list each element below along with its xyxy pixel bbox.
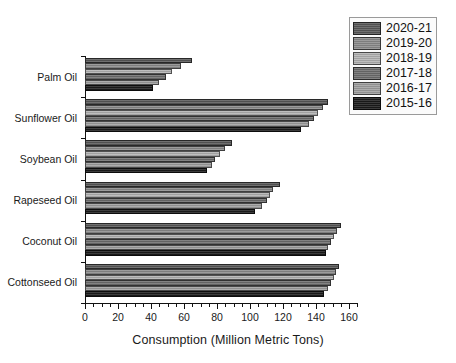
bar-row — [85, 209, 356, 214]
y-axis-label: Soybean Oil — [20, 153, 77, 165]
legend-swatch — [353, 22, 381, 35]
y-axis-label: Coconut Oil — [22, 235, 77, 247]
bar-chart: Palm OilSunflower OilSoybean OilRapeseed… — [0, 0, 456, 363]
x-axis-tick-minor — [234, 303, 235, 307]
y-axis-label: Sunflower Oil — [15, 112, 77, 124]
legend-swatch — [353, 37, 381, 50]
bar-group: Rapeseed Oil — [85, 180, 356, 221]
y-axis-tick — [81, 262, 86, 263]
x-axis-tick-major — [250, 303, 251, 309]
legend-item[interactable]: 2016-17 — [353, 81, 432, 96]
x-axis-tick-minor — [308, 303, 309, 307]
legend-label: 2017-18 — [386, 67, 432, 80]
x-axis-tick-minor — [333, 303, 334, 307]
bar-row — [85, 85, 356, 90]
x-axis-tick-minor — [300, 303, 301, 307]
x-axis-tick-label: 100 — [241, 311, 259, 323]
x-axis-tick-minor — [168, 303, 169, 307]
legend-swatch — [353, 52, 381, 65]
bar[interactable] — [85, 250, 326, 255]
x-axis-tick-label: 60 — [178, 311, 190, 323]
x-axis-tick-minor — [201, 303, 202, 307]
x-axis-tick-minor — [209, 303, 210, 307]
x-axis-tick-label: 80 — [211, 311, 223, 323]
x-axis-tick-minor — [275, 303, 276, 307]
x-axis-tick-major — [283, 303, 284, 309]
x-axis-tick-minor — [267, 303, 268, 307]
legend-item[interactable]: 2019-20 — [353, 36, 432, 51]
y-axis-label: Rapeseed Oil — [13, 194, 77, 206]
x-axis-tick-minor — [159, 303, 160, 307]
x-axis-tick-minor — [176, 303, 177, 307]
x-axis-tick-label: 0 — [82, 311, 88, 323]
bar-row — [85, 250, 356, 255]
plot-area: Palm OilSunflower OilSoybean OilRapeseed… — [85, 56, 356, 303]
bar[interactable] — [85, 209, 255, 214]
y-axis-tick — [81, 221, 86, 222]
x-axis-tick-minor — [93, 303, 94, 307]
legend-item[interactable]: 2017-18 — [353, 66, 432, 81]
x-axis-tick-major — [316, 303, 317, 309]
x-axis-tick-minor — [126, 303, 127, 307]
x-axis-tick-minor — [291, 303, 292, 307]
bar-group: Sunflower Oil — [85, 97, 356, 138]
bar-row — [85, 291, 356, 296]
x-axis-tick-minor — [258, 303, 259, 307]
bar[interactable] — [85, 168, 207, 173]
x-axis-tick-minor — [324, 303, 325, 307]
legend-item[interactable]: 2018-19 — [353, 51, 432, 66]
legend-label: 2018-19 — [386, 52, 432, 65]
x-axis-tick-minor — [192, 303, 193, 307]
x-axis-tick-minor — [110, 303, 111, 307]
bar-group: Coconut Oil — [85, 221, 356, 262]
bar-group: Soybean Oil — [85, 138, 356, 179]
x-axis-tick-label: 160 — [340, 311, 358, 323]
legend-label: 2016-17 — [386, 82, 432, 95]
x-axis-tick-minor — [225, 303, 226, 307]
bar-row — [85, 168, 356, 173]
x-axis-tick-minor — [143, 303, 144, 307]
legend: 2020-212019-202018-192017-182016-172015-… — [349, 17, 437, 115]
x-axis-tick-minor — [242, 303, 243, 307]
x-axis-tick-label: 40 — [145, 311, 157, 323]
bar[interactable] — [85, 127, 301, 132]
x-axis-tick-major — [85, 303, 86, 309]
y-axis-label: Palm Oil — [37, 71, 77, 83]
x-axis-tick-minor — [135, 303, 136, 307]
x-axis-tick-major — [118, 303, 119, 309]
legend-swatch — [353, 97, 381, 110]
y-axis-tick — [81, 97, 86, 98]
bar-row — [85, 127, 356, 132]
x-axis-tick-major — [184, 303, 185, 309]
bar[interactable] — [85, 85, 153, 90]
legend-item[interactable]: 2020-21 — [353, 21, 432, 36]
x-axis-tick-minor — [341, 303, 342, 307]
legend-swatch — [353, 67, 381, 80]
x-axis-tick-major — [349, 303, 350, 309]
x-axis-tick-major — [217, 303, 218, 309]
x-axis-tick-minor — [357, 303, 358, 307]
x-axis-tick-major — [151, 303, 152, 309]
legend-label: 2019-20 — [386, 37, 432, 50]
y-axis-tick — [81, 138, 86, 139]
x-axis-tick-minor — [102, 303, 103, 307]
x-axis-title: Consumption (Million Metric Tons) — [0, 333, 456, 347]
y-axis-label: Cottonseed Oil — [8, 276, 77, 288]
y-axis-tick — [81, 180, 86, 181]
legend-label: 2020-21 — [386, 22, 432, 35]
bar-group: Cottonseed Oil — [85, 262, 356, 303]
bar[interactable] — [85, 291, 324, 296]
x-axis-tick-label: 140 — [307, 311, 325, 323]
bar-group: Palm Oil — [85, 56, 356, 97]
legend-item[interactable]: 2015-16 — [353, 96, 432, 111]
x-axis-tick-label: 20 — [112, 311, 124, 323]
y-axis-tick — [81, 56, 86, 57]
x-axis-tick-label: 120 — [274, 311, 292, 323]
legend-swatch — [353, 82, 381, 95]
legend-label: 2015-16 — [386, 97, 432, 110]
